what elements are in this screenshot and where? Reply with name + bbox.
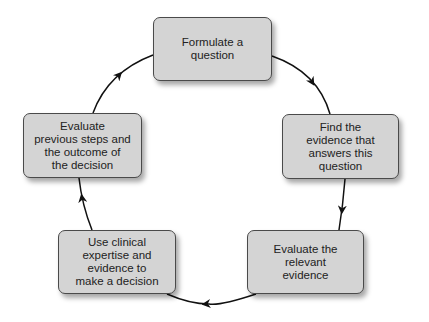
step-formulate-question: Formulate a question [153,17,272,81]
arrow-formulate-to-find [272,56,330,114]
arrow-decide-to-evaluate-outcome [79,178,92,230]
step-find-evidence: Find the evidence that answers this ques… [282,114,399,179]
arrow-find-to-evaluate [339,179,345,230]
step-evaluate-outcome: Evaluate previous steps and the outcome … [23,113,142,178]
arrow-evaluate-outcome-to-formulate [93,55,153,113]
arrow-evaluate-to-decide [167,294,256,304]
step-make-decision: Use clinical expertise and evidence to m… [58,230,176,294]
step-evaluate-evidence: Evaluate the relevant evidence [247,230,364,294]
